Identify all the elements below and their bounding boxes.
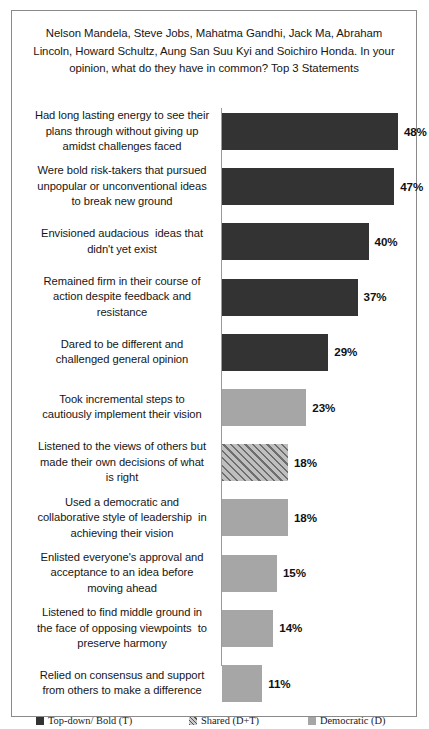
bar-category-label: Used a democratic and collaborative styl… [26,495,218,542]
legend-label-shared: Shared (D+T) [201,715,259,726]
bar-row: Used a democratic and collaborative styl… [12,499,416,536]
legend-label-topdown: Top-down/ Bold (T) [48,715,132,726]
bar-democratic[interactable] [222,499,288,536]
legend-item-democratic: Democratic (D) [308,715,385,726]
bar-democratic[interactable] [222,665,262,702]
bar-category-label: Listened to the views of others but made… [26,439,218,486]
chart-frame: Nelson Mandela, Steve Jobs, Mahatma Gand… [11,10,417,717]
bar-row: Were bold risk-takers that pursued unpop… [12,168,416,205]
bar-democratic[interactable] [222,610,273,647]
chart-title: Nelson Mandela, Steve Jobs, Mahatma Gand… [30,25,398,78]
bar-value-label: 47% [400,180,423,193]
bar-category-label: Envisioned audacious ideas that didn't y… [26,226,218,257]
bar-row: Had long lasting energy to see their pla… [12,113,416,150]
bar-category-label: Took incremental steps to cautiously imp… [26,392,218,423]
bar-democratic[interactable] [222,389,306,426]
bar-row: Enlisted everyone's approval and accepta… [12,555,416,592]
bar-category-label: Had long lasting energy to see their pla… [26,108,218,155]
bar-topdown[interactable] [222,168,394,205]
bar-row: Envisioned audacious ideas that didn't y… [12,223,416,260]
bar-value-label: 18% [294,511,317,524]
bar-row: Listened to find middle ground in the fa… [12,610,416,647]
bar-category-label: Relied on consensus and support from oth… [26,668,218,699]
bar-category-label: Were bold risk-takers that pursued unpop… [26,163,218,210]
bar-value-label: 14% [279,621,302,634]
bar-category-label: Remained firm in their course of action … [26,274,218,321]
bar-value-label: 18% [294,456,317,469]
bar-value-label: 40% [375,235,398,248]
legend-swatch-democratic-icon [308,717,316,725]
bar-topdown[interactable] [222,113,398,150]
legend-item-shared: Shared (D+T) [189,715,259,726]
bar-row: Listened to the views of others but made… [12,444,416,481]
bar-row: Relied on consensus and support from oth… [12,665,416,702]
bar-value-label: 29% [334,345,357,358]
legend-item-topdown: Top-down/ Bold (T) [36,715,132,726]
chart-legend: Top-down/ Bold (T) Shared (D+T) Democrat… [12,715,416,729]
bar-category-label: Enlisted everyone's approval and accepta… [26,550,218,597]
bar-row: Dared to be different and challenged gen… [12,334,416,371]
bar-category-label: Listened to find middle ground in the fa… [26,605,218,652]
bar-value-label: 37% [364,290,387,303]
bar-value-label: 15% [283,566,306,579]
bar-topdown[interactable] [222,223,369,260]
bar-category-label: Dared to be different and challenged gen… [26,337,218,368]
bar-value-label: 11% [268,677,290,690]
bar-shared[interactable] [222,444,288,481]
bar-value-label: 48% [404,125,427,138]
bar-row: Took incremental steps to cautiously imp… [12,389,416,426]
bar-topdown[interactable] [222,334,328,371]
plot-area: Had long lasting energy to see their pla… [12,106,416,666]
bar-row: Remained firm in their course of action … [12,279,416,316]
bar-topdown[interactable] [222,279,358,316]
bar-democratic[interactable] [222,555,277,592]
bar-value-label: 23% [312,401,335,414]
legend-swatch-shared-icon [189,717,197,725]
legend-swatch-topdown-icon [36,717,44,725]
legend-label-democratic: Democratic (D) [320,715,385,726]
